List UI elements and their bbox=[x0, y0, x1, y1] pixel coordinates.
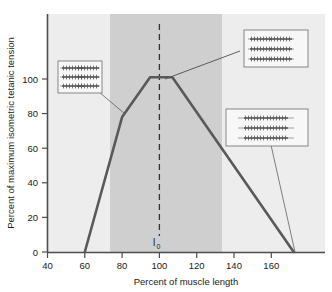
x-tick-label-40: 40 bbox=[42, 260, 53, 271]
x-tick-label-140: 140 bbox=[226, 260, 242, 271]
y-tick-label-40: 40 bbox=[27, 177, 38, 188]
l0-label: l bbox=[153, 237, 155, 248]
y-axis-ticks bbox=[42, 79, 48, 252]
l0-label-subscript: 0 bbox=[157, 243, 161, 250]
x-tick-label-160: 160 bbox=[263, 260, 279, 271]
sarcomere-inset-stretched bbox=[226, 109, 308, 146]
y-tick-label-0: 0 bbox=[33, 247, 38, 258]
x-tick-label-100: 100 bbox=[151, 260, 167, 271]
x-axis-ticks bbox=[48, 253, 272, 259]
sarcomere-inset-optimal bbox=[244, 30, 308, 67]
y-axis-title: Percent of maximum isometric tetanic ten… bbox=[5, 37, 16, 229]
x-axis-title: Percent of muscle length bbox=[134, 276, 239, 287]
x-tick-label-80: 80 bbox=[117, 260, 128, 271]
y-tick-label-100: 100 bbox=[22, 74, 38, 85]
chart-svg: 100 80 60 40 20 0 40 60 80 100 120 140 1… bbox=[0, 0, 332, 292]
x-tick-label-60: 60 bbox=[80, 260, 91, 271]
y-tick-label-20: 20 bbox=[27, 212, 38, 223]
y-tick-label-80: 80 bbox=[27, 108, 38, 119]
sarcomere-inset-shortened bbox=[58, 61, 102, 93]
optimal-length-band bbox=[110, 14, 222, 252]
y-tick-label-60: 60 bbox=[27, 143, 38, 154]
x-tick-label-120: 120 bbox=[189, 260, 205, 271]
length-tension-figure: 100 80 60 40 20 0 40 60 80 100 120 140 1… bbox=[0, 0, 332, 292]
